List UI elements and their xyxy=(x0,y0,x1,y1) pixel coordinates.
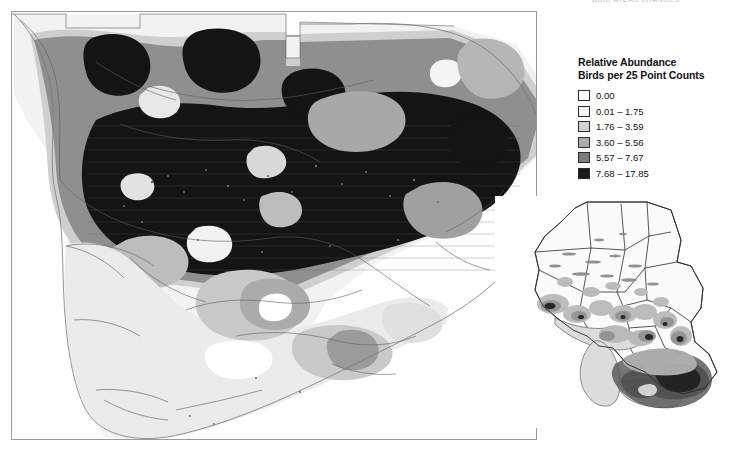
legend-class-list: 0.000.01 – 1.751.76 – 3.593.60 – 5.565.5… xyxy=(578,88,730,181)
legend-label: 0.01 – 1.75 xyxy=(596,106,644,117)
legend-title: Relative Abundance Birds per 25 Point Co… xyxy=(578,56,730,81)
legend-swatch xyxy=(578,90,590,101)
main-map xyxy=(0,0,575,456)
legend-label: 0.00 xyxy=(596,90,615,101)
legend-title-line-2: Birds per 25 Point Counts xyxy=(578,69,730,82)
running-head: BIRD ATLAS CHANGES xyxy=(592,0,732,5)
legend-label: 1.76 – 3.59 xyxy=(596,121,644,132)
legend-label: 5.57 – 7.67 xyxy=(596,152,644,163)
legend-row: 3.60 – 5.56 xyxy=(578,135,730,151)
figure-page: BIRD ATLAS CHANGES xyxy=(0,0,733,456)
legend: Relative Abundance Birds per 25 Point Co… xyxy=(578,56,730,181)
legend-row: 0.01 – 1.75 xyxy=(578,104,730,120)
inset-map xyxy=(495,196,733,428)
legend-swatch xyxy=(578,168,590,179)
legend-row: 0.00 xyxy=(578,88,730,104)
legend-title-line-1: Relative Abundance xyxy=(578,56,730,69)
legend-row: 1.76 – 3.59 xyxy=(578,119,730,135)
legend-swatch xyxy=(578,152,590,163)
legend-label: 3.60 – 5.56 xyxy=(596,137,644,148)
legend-label: 7.68 – 17.85 xyxy=(596,168,649,179)
legend-swatch xyxy=(578,106,590,117)
legend-swatch xyxy=(578,137,590,148)
legend-swatch xyxy=(578,121,590,132)
legend-row: 7.68 – 17.85 xyxy=(578,166,730,182)
legend-row: 5.57 – 7.67 xyxy=(578,150,730,166)
